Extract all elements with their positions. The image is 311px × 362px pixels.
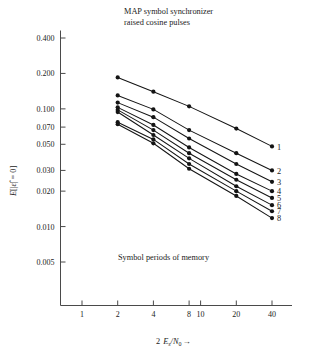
x-tick-label: 20 — [232, 310, 240, 319]
y-tick-label: 0.200 — [37, 69, 55, 78]
data-point-marker — [187, 145, 191, 149]
x-tick-label: 8 — [187, 310, 191, 319]
data-point-marker — [187, 136, 191, 140]
inner-annotation: Symbol periods of memory — [118, 253, 210, 262]
data-point-marker — [151, 137, 155, 141]
data-point-marker — [151, 123, 155, 127]
figure-canvas: MAP symbol synchronizerraised cosine pul… — [0, 0, 311, 362]
data-point-marker — [116, 101, 120, 105]
chart-svg: MAP symbol synchronizerraised cosine pul… — [0, 0, 311, 362]
data-point-marker — [270, 209, 274, 213]
data-point-marker — [151, 133, 155, 137]
data-point-marker — [187, 162, 191, 166]
x-axis-label-sub-zero: 0 — [178, 341, 181, 347]
data-point-marker — [270, 216, 274, 220]
data-point-marker — [151, 90, 155, 94]
data-point-marker — [270, 168, 274, 172]
y-tick-label: 0.400 — [37, 34, 55, 43]
x-axis-label-two: 2 — [156, 337, 160, 346]
data-point-marker — [234, 151, 238, 155]
y-tick-label: 0.005 — [37, 258, 55, 267]
data-point-marker — [270, 180, 274, 184]
x-tick-label: 1 — [80, 310, 84, 319]
data-point-marker — [151, 141, 155, 145]
data-point-marker — [151, 115, 155, 119]
y-axis-label-tail: | = 0] — [9, 166, 18, 184]
y-tick-label: 0.050 — [37, 140, 55, 149]
data-point-marker — [234, 162, 238, 166]
data-point-marker — [116, 75, 120, 79]
data-point-marker — [116, 93, 120, 97]
data-point-marker — [116, 110, 120, 114]
y-axis-label: E[|ε̂| = 0] — [9, 166, 18, 197]
data-point-marker — [187, 128, 191, 132]
y-tick-label: 0.020 — [37, 187, 55, 196]
data-point-marker — [187, 156, 191, 160]
data-point-marker — [270, 203, 274, 207]
x-tick-label: 10 — [197, 310, 205, 319]
y-tick-label: 0.070 — [37, 123, 55, 132]
chart-title-line-2: raised cosine pulses — [124, 18, 190, 27]
data-point-marker — [234, 184, 238, 188]
x-tick-label: 4 — [151, 310, 155, 319]
y-tick-label: 0.100 — [37, 105, 55, 114]
data-point-marker — [270, 144, 274, 148]
data-point-marker — [187, 104, 191, 108]
y-tick-label: 0.010 — [37, 223, 55, 232]
data-point-marker — [270, 196, 274, 200]
y-tick-label: 0.030 — [37, 166, 55, 175]
series-label: 3 — [277, 178, 281, 187]
data-point-marker — [270, 189, 274, 193]
chart-title-line-1: MAP symbol synchronizer — [124, 7, 213, 16]
chart-background — [0, 0, 311, 362]
data-point-marker — [151, 107, 155, 111]
data-point-marker — [234, 126, 238, 130]
data-point-marker — [234, 194, 238, 198]
x-axis-label-arrow: → — [182, 337, 190, 346]
data-point-marker — [151, 128, 155, 132]
svg-text:E[|ε̂| = 0]: E[|ε̂| = 0] — [9, 166, 18, 197]
data-point-marker — [234, 189, 238, 193]
data-point-marker — [187, 151, 191, 155]
series-label: 8 — [277, 214, 281, 223]
data-point-marker — [234, 172, 238, 176]
x-tick-label: 40 — [268, 310, 276, 319]
series-label: 1 — [277, 143, 281, 152]
series-label: 2 — [277, 167, 281, 176]
data-point-marker — [187, 167, 191, 171]
x-tick-label: 2 — [116, 310, 120, 319]
data-point-marker — [234, 178, 238, 182]
data-point-marker — [116, 122, 120, 126]
